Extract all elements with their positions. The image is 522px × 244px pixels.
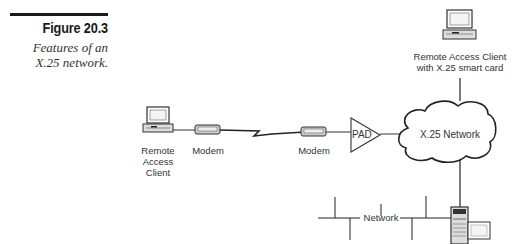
phone-link — [220, 130, 305, 136]
network-label: Network — [361, 212, 401, 223]
modem-icon — [301, 127, 326, 136]
monitor-icon — [468, 222, 490, 239]
network-diagram — [0, 0, 522, 244]
x25-network-label: X.25 Network — [410, 129, 490, 140]
remote-client-label: Remote Access Client — [136, 145, 180, 178]
server-icon — [451, 207, 468, 244]
computer-icon — [443, 10, 476, 39]
modem-right-label: Modem — [294, 145, 334, 156]
modem-icon — [195, 125, 220, 134]
pad-label: PAD — [351, 129, 376, 140]
smart-card-client-label: Remote Access Client with X.25 smart car… — [405, 51, 515, 73]
modem-left-label: Modem — [188, 145, 228, 156]
computer-icon — [143, 107, 173, 132]
